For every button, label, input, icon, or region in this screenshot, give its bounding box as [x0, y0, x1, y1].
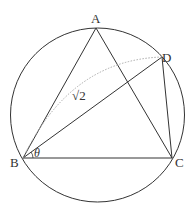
angle-arc-theta [31, 152, 33, 158]
circumcircle [11, 28, 185, 202]
segment-ac [96, 28, 172, 158]
point-label-a: A [91, 11, 101, 26]
point-label-d: D [162, 50, 171, 65]
geometry-diagram: A B C D √2 θ [0, 0, 193, 213]
point-label-b: B [10, 155, 19, 170]
length-label-bd: √2 [72, 88, 86, 103]
angle-label-theta: θ [34, 146, 40, 160]
point-label-c: C [175, 155, 184, 170]
segment-bd [23, 57, 162, 158]
